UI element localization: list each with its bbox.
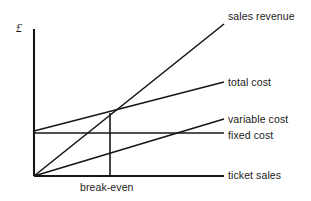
y-axis-unit-label: £ <box>16 21 22 36</box>
break-even-label: break-even <box>80 182 134 193</box>
total-cost-label: total cost <box>228 77 271 88</box>
total-cost-line <box>34 82 224 131</box>
ticket-sales-label: ticket sales <box>228 170 281 181</box>
variable-cost-label: variable cost <box>228 114 288 125</box>
fixed-cost-label: fixed cost <box>228 130 273 141</box>
variable-cost-line <box>34 119 224 176</box>
sales-revenue-line <box>34 24 224 176</box>
sales-revenue-label: sales revenue <box>228 11 295 22</box>
break-even-chart: £ sales revenue total cost variable cost… <box>0 0 311 201</box>
